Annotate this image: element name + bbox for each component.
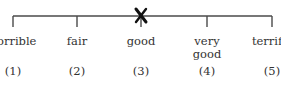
- label-very-good: very good: [193, 35, 222, 61]
- label-horrible: horrible: [0, 35, 36, 48]
- rating-scale: horrible fair good very good terrific (1…: [0, 0, 281, 86]
- number-4: (4): [199, 65, 215, 78]
- number-1: (1): [5, 65, 21, 78]
- label-fair: fair: [67, 35, 87, 48]
- number-2: (2): [69, 65, 85, 78]
- number-5: (5): [264, 65, 280, 78]
- number-3: (3): [133, 65, 149, 78]
- label-good: good: [127, 35, 156, 48]
- label-terrific: terrific: [252, 35, 281, 48]
